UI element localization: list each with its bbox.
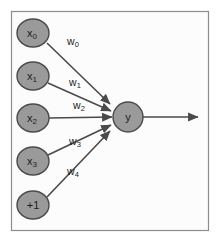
node-x3[interactable]: x3 bbox=[17, 147, 49, 175]
node-x1[interactable]: x1 bbox=[17, 62, 49, 90]
node-bias-label: +1 bbox=[27, 199, 40, 211]
node-x0[interactable]: x0 bbox=[17, 19, 49, 47]
node-y[interactable]: y bbox=[113, 102, 143, 132]
perceptron-diagram-canvas: x0 x1 x2 x3 bbox=[0, 0, 219, 243]
perceptron-figure: x0 x1 x2 x3 bbox=[0, 0, 219, 243]
node-x2[interactable]: x2 bbox=[17, 104, 49, 132]
node-bias[interactable]: +1 bbox=[17, 191, 49, 219]
edge-x2-y bbox=[49, 117, 112, 118]
node-y-label: y bbox=[125, 111, 131, 123]
